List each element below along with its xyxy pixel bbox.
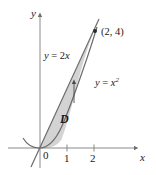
line-equation-variable: x (65, 50, 70, 61)
y-axis-label: y (31, 8, 36, 19)
parabola-equation-operator: = (100, 77, 111, 88)
math-figure: y x 0 1 2 y = 2x y = x2 D (2, 4) (0, 0, 156, 175)
figure-canvas (0, 0, 156, 175)
x-axis-label: x (140, 152, 145, 163)
origin-label: 0 (43, 150, 49, 161)
parabola-equation-exponent: 2 (116, 76, 120, 84)
line-equation-label: y = 2x (44, 51, 70, 62)
parabola-equation-label: y = x2 (95, 78, 119, 89)
region-label-d: D (60, 113, 69, 125)
parabola-y-equals-x-squared (23, 27, 97, 148)
line-equation-operator: = 2 (49, 50, 65, 61)
point-2-4-dot (93, 29, 97, 33)
point-label-2-4: (2, 4) (101, 27, 124, 38)
line-y-equals-2x (31, 19, 99, 167)
x-tick-label-1: 1 (64, 153, 70, 164)
x-tick-label-2: 2 (90, 153, 96, 164)
